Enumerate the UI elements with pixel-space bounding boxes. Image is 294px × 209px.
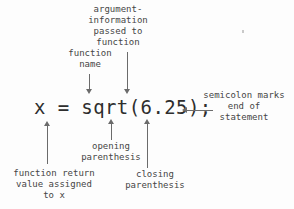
annotation-semicolon-arrow-head-left-icon <box>182 107 187 113</box>
annotation-opening-paren-label: opening parenthesis <box>73 141 149 163</box>
annotation-return-value-label: function return value assigned to x <box>2 168 106 201</box>
annotation-semicolon-label: semicolon marks end of statement <box>196 90 292 123</box>
annotation-closing-paren-arrow-line <box>147 124 148 168</box>
annotated-code-diagram: argument- information passed to function… <box>0 0 294 209</box>
annotation-argument-arrow-line <box>127 52 128 90</box>
annotation-argument-arrow-head-down-icon <box>124 89 130 94</box>
annotation-function-name-arrow-line <box>89 74 90 90</box>
annotation-opening-paren-arrow-line <box>111 124 112 140</box>
annotation-return-value-arrow-line <box>47 126 48 164</box>
annotation-closing-paren-label: closing parenthesis <box>113 169 197 191</box>
annotation-argument-label: argument- information passed to function <box>72 4 164 48</box>
scan-artifact-speck <box>242 30 244 33</box>
annotation-semicolon-arrow-line <box>187 110 213 111</box>
annotation-function-name-arrow-head-down-icon <box>86 89 92 94</box>
annotation-function-name-label: function name <box>55 48 125 70</box>
